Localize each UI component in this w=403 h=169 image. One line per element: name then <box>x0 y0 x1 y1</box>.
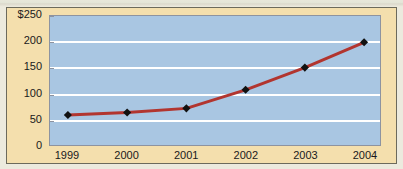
y-axis-tick-mark <box>50 16 54 17</box>
y-axis-tick-label: 50 <box>5 114 47 125</box>
x-axis-tick-label: 2002 <box>218 149 274 161</box>
y-axis: 050100150200$250 <box>5 8 47 163</box>
plot-area <box>49 15 381 146</box>
y-axis-tick-mark <box>50 121 54 122</box>
x-axis-tick-label: 2004 <box>337 149 393 161</box>
x-axis-tick-label: 2000 <box>99 149 155 161</box>
chart-panel: 050100150200$250 19992000200120022003200… <box>6 7 397 164</box>
cropped-title-artifact <box>0 0 403 7</box>
y-axis-tick-mark <box>50 42 54 43</box>
x-axis-tick-label: 2001 <box>158 149 214 161</box>
data-point-marker <box>301 64 309 72</box>
y-axis-tick-label: 100 <box>5 88 47 99</box>
chart-figure: 050100150200$250 19992000200120022003200… <box>0 0 403 169</box>
y-axis-tick-mark <box>50 95 54 96</box>
x-axis-tick-label: 2003 <box>277 149 333 161</box>
data-point-marker <box>182 104 190 112</box>
data-point-marker <box>123 108 131 116</box>
data-point-marker <box>242 86 250 94</box>
y-axis-tick-label: 200 <box>5 35 47 46</box>
data-point-marker <box>360 38 368 46</box>
x-axis: 199920002001200220032004 <box>49 147 381 165</box>
y-axis-tick-label: $250 <box>5 9 47 20</box>
line-series <box>50 16 380 145</box>
x-axis-tick-label: 1999 <box>39 149 95 161</box>
y-axis-tick-label: 150 <box>5 61 47 72</box>
data-point-marker <box>64 111 72 119</box>
series-line <box>68 42 364 115</box>
y-axis-tick-mark <box>50 68 54 69</box>
